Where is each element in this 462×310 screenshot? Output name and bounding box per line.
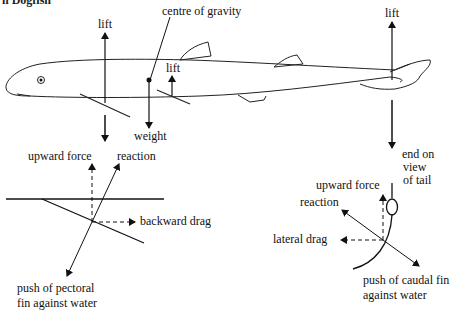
pectoral-push-label-1: push of pectoral	[17, 282, 94, 295]
backward-drag-label: backward drag	[140, 215, 211, 228]
lift-tail-label: lift	[385, 7, 399, 20]
pectoral-upward-force-label: upward force	[28, 150, 92, 163]
caudal-force-diagram	[341, 183, 419, 269]
pectoral-reaction-label: reaction	[117, 150, 156, 163]
lateral-drag-label: lateral drag	[273, 233, 327, 246]
caudal-push-label-2: against water	[363, 289, 427, 302]
weight-label: weight	[134, 130, 167, 143]
page-heading-partial: n Dogfish	[2, 0, 51, 8]
end-on-label-3: of tail	[403, 174, 431, 187]
pectoral-push-label-2: fin against water	[17, 297, 97, 310]
lift-pectoral-label: lift	[98, 18, 112, 31]
fish-outline	[6, 42, 430, 102]
caudal-push-label-1: push of caudal fin	[363, 274, 449, 287]
centre-of-gravity-label: centre of gravity	[162, 5, 241, 18]
lift-pelvic-label: lift	[166, 62, 180, 75]
tail-reaction-label: reaction	[300, 196, 339, 209]
tail-upward-force-label: upward force	[316, 179, 380, 192]
